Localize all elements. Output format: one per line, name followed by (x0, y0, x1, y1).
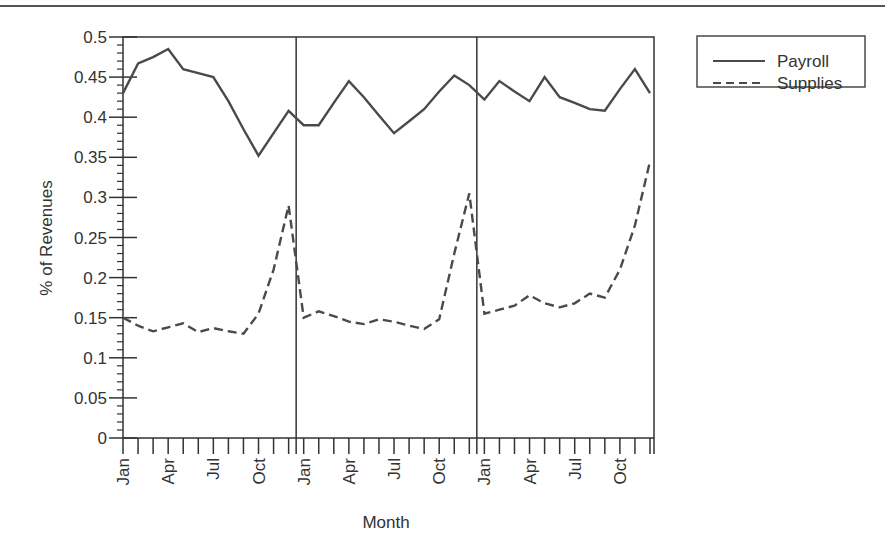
x-tick-label: Oct (611, 458, 630, 485)
x-tick-label: Jan (114, 458, 133, 485)
y-tick-label: 0.1 (83, 349, 107, 368)
y-tick-label: 0.05 (74, 389, 107, 408)
y-tick-label: 0.35 (74, 148, 107, 167)
payroll-line (123, 49, 650, 156)
x-tick-label: Oct (430, 458, 449, 485)
x-tick-label: Jul (385, 458, 404, 480)
y-tick-label: 0.3 (83, 188, 107, 207)
y-tick-label: 0.2 (83, 269, 107, 288)
x-tick-label: Jul (566, 458, 585, 480)
x-tick-label: Apr (340, 458, 359, 485)
x-tick-label: Jan (295, 458, 314, 485)
y-tick-label: 0.25 (74, 229, 107, 248)
x-tick-label: Oct (250, 458, 269, 485)
x-axis-title: Month (362, 513, 409, 532)
x-tick-label: Apr (521, 458, 540, 485)
x-tick-label: Apr (159, 458, 178, 485)
plot-border (123, 37, 654, 438)
y-axis-title: % of Revenues (37, 180, 56, 295)
y-tick-label: 0.4 (83, 108, 107, 127)
y-tick-label: 0.15 (74, 309, 107, 328)
y-axis: 00.050.10.150.20.250.30.350.40.450.5 (74, 28, 137, 448)
legend: Payroll Supplies (697, 36, 865, 93)
x-tick-label: Jan (475, 458, 494, 485)
legend-payroll-label: Payroll (777, 52, 829, 71)
plot-frame (123, 37, 654, 438)
legend-supplies-label: Supplies (777, 74, 842, 93)
supplies-line (123, 161, 650, 333)
series-lines (123, 49, 650, 334)
x-tick-label: Jul (204, 458, 223, 480)
y-tick-label: 0.5 (83, 28, 107, 47)
x-axis: JanAprJulOctJanAprJulOctJanAprJulOct (114, 438, 654, 485)
y-tick-label: 0.45 (74, 68, 107, 87)
line-chart: 00.050.10.150.20.250.30.350.40.450.5 Jan… (0, 0, 885, 553)
y-tick-label: 0 (98, 429, 107, 448)
year-separators (296, 37, 477, 454)
